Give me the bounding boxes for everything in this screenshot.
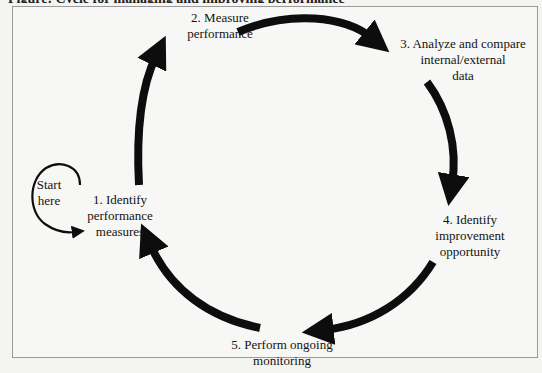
step-3-line: data bbox=[393, 68, 533, 84]
step-3-analyze-compare: 3. Analyze and compare internal/external… bbox=[393, 36, 533, 84]
arrow-step3-to-step4-icon bbox=[427, 82, 454, 184]
step-4-identify-improvement: 4. Identify improvement opportunity bbox=[415, 212, 525, 260]
step-5-line: 5. Perform ongoing bbox=[212, 337, 352, 353]
start-here-label: Start here bbox=[28, 177, 70, 209]
arrow-step4-to-step5-icon bbox=[324, 262, 433, 330]
step-4-line: 4. Identify bbox=[415, 212, 525, 228]
step-2-line: 2. Measure bbox=[170, 10, 270, 26]
step-1-line: performance bbox=[70, 208, 170, 224]
step-4-line: improvement bbox=[415, 228, 525, 244]
step-3-line: internal/external bbox=[393, 52, 533, 68]
arrow-step5-to-step1-icon bbox=[150, 244, 260, 328]
step-5-line: monitoring bbox=[212, 353, 352, 369]
start-here-line: Start bbox=[28, 177, 70, 193]
step-4-line: opportunity bbox=[415, 244, 525, 260]
step-1-line: measures bbox=[70, 224, 170, 240]
start-here-line: here bbox=[28, 193, 70, 209]
step-1-identify-measures: 1. Identify performance measures bbox=[70, 192, 170, 240]
step-1-line: 1. Identify bbox=[70, 192, 170, 208]
step-5-ongoing-monitoring: 5. Perform ongoing monitoring bbox=[212, 337, 352, 369]
arrow-step1-to-step2-icon bbox=[138, 56, 156, 185]
step-2-line: performance bbox=[170, 26, 270, 42]
step-3-line: 3. Analyze and compare bbox=[393, 36, 533, 52]
step-2-measure-performance: 2. Measure performance bbox=[170, 10, 270, 42]
